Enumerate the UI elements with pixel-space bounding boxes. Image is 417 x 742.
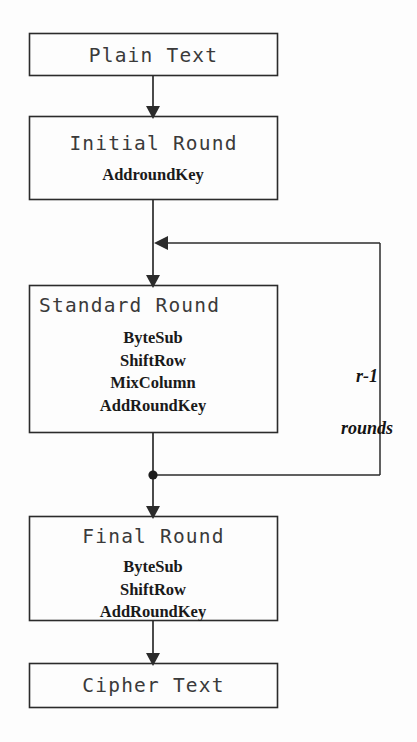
- final-round-heading: Final Round: [0, 527, 307, 547]
- standard-round-heading: Standard Round: [39, 296, 220, 316]
- diagram-canvas: Plain Text Initial Round AddroundKey Sta…: [0, 0, 417, 742]
- operation-item: ShiftRow: [29, 353, 277, 370]
- loop-rounds-label-line2: rounds: [341, 418, 393, 438]
- final-round-operations: ByteSub ShiftRow AddRoundKey: [29, 559, 277, 627]
- loop-junction-dot: [148, 470, 157, 479]
- standard-round-operations: ByteSub ShiftRow MixColumn AddRoundKey: [29, 330, 277, 420]
- operation-item: ShiftRow: [29, 582, 277, 599]
- operation-item: AddRoundKey: [29, 398, 277, 415]
- plain-text-heading: Plain Text: [0, 46, 307, 66]
- operation-item: ByteSub: [29, 559, 277, 576]
- loop-rounds-label: r-1 rounds: [300, 337, 416, 467]
- initial-round-operations: AddroundKey: [29, 167, 277, 190]
- operation-item: MixColumn: [29, 375, 277, 392]
- operation-item: ByteSub: [29, 330, 277, 347]
- initial-round-heading: Initial Round: [0, 134, 307, 154]
- loop-rounds-label-line1: r-1: [356, 366, 378, 386]
- cipher-text-heading: Cipher Text: [0, 676, 307, 696]
- arrowhead-loop-return: [154, 236, 168, 250]
- operation-item: AddroundKey: [29, 167, 277, 184]
- operation-item: AddRoundKey: [29, 604, 277, 621]
